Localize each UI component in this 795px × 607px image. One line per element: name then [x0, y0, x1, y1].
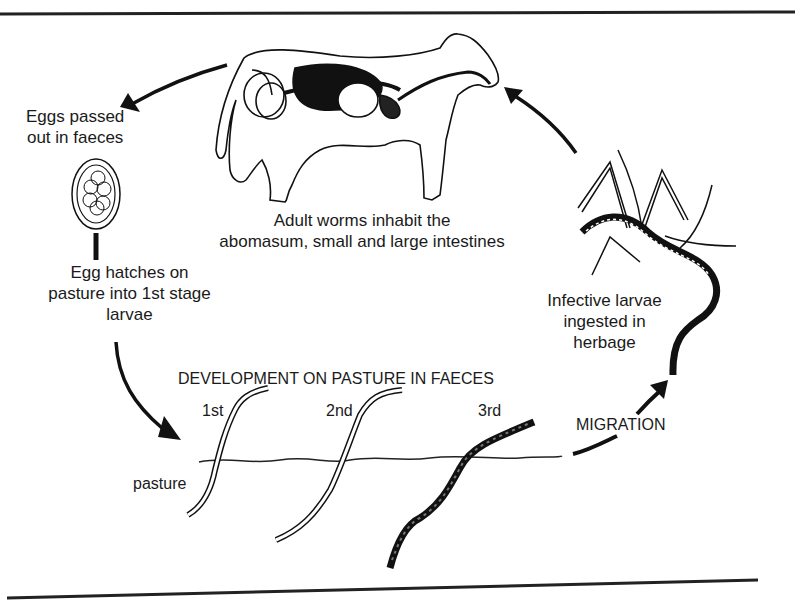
migration-arrow	[637, 390, 661, 414]
larva-stage-3-icon	[390, 422, 534, 568]
label-line: Egg hatches on	[42, 262, 217, 283]
label-development: DEVELOPMENT ON PASTURE IN FAECES	[178, 368, 494, 389]
top-border-line	[0, 12, 795, 14]
egg-icon	[72, 159, 120, 229]
bottom-border-line	[7, 580, 758, 598]
label-line: larvae	[42, 304, 217, 325]
cow-illustration	[216, 34, 498, 202]
label-migration: MIGRATION	[576, 414, 665, 435]
label-line: out in faeces	[26, 127, 124, 148]
grass-with-larva-icon	[578, 150, 736, 275]
arrow-ingestion-to-cow	[515, 96, 576, 153]
arrow-hatch-to-development	[116, 342, 162, 428]
label-infective-larvae: Infective larvae ingested in herbage	[537, 290, 672, 353]
label-egg-hatches: Egg hatches on pasture into 1st stage la…	[42, 262, 217, 325]
label-line: Adult worms inhabit the	[196, 210, 528, 231]
label-adult-worms: Adult worms inhabit the abomasum, small …	[196, 210, 528, 252]
label-line: Eggs passed	[26, 106, 124, 127]
label-stage-1: 1st	[202, 400, 223, 421]
label-eggs-passed: Eggs passed out in faeces	[26, 106, 124, 148]
larva-stage-1-icon	[188, 388, 268, 515]
migration-arrow-tail	[573, 436, 617, 454]
label-line: Infective larvae	[537, 290, 672, 311]
label-line: herbage	[537, 332, 672, 353]
label-line: pasture into 1st stage	[42, 283, 217, 304]
label-stage-2: 2nd	[326, 400, 353, 421]
label-stage-3: 3rd	[478, 400, 501, 421]
label-line: abomasum, small and large intestines	[196, 231, 528, 252]
label-line: ingested in	[537, 311, 672, 332]
pasture-ground-line	[199, 456, 562, 462]
label-pasture: pasture	[133, 473, 186, 494]
arrow-cow-to-eggs	[132, 65, 227, 104]
arrowhead-icon	[158, 416, 181, 440]
